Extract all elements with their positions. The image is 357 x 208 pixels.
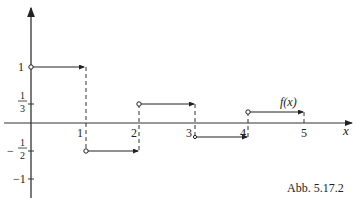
x-tick-1: 1 [77,126,83,140]
y-tick-third-num: 1 [20,90,25,101]
x-tick-3: 3 [186,126,192,140]
function-label: f(x) [280,95,297,109]
figure-caption: Abb. 5.17.2 [287,181,344,196]
x-tick-4: 4 [240,126,246,140]
x-tick-2: 2 [131,126,137,140]
y-tick-half-den: 2 [20,150,25,161]
y-tick-half-minus: − [7,144,14,158]
step-segments [33,67,303,151]
x-axis-label: x [342,123,349,138]
y-tick-half-num: 1 [20,137,25,148]
y-tick-minus-1: −1 [13,172,26,186]
y-tick-1: 1 [18,60,24,74]
step-function-chart: 1 2 3 4 5 1 1 3 − 1 2 −1 f(x) x [0,0,357,208]
y-tick-third-den: 3 [20,103,25,114]
x-tick-5: 5 [301,126,307,140]
